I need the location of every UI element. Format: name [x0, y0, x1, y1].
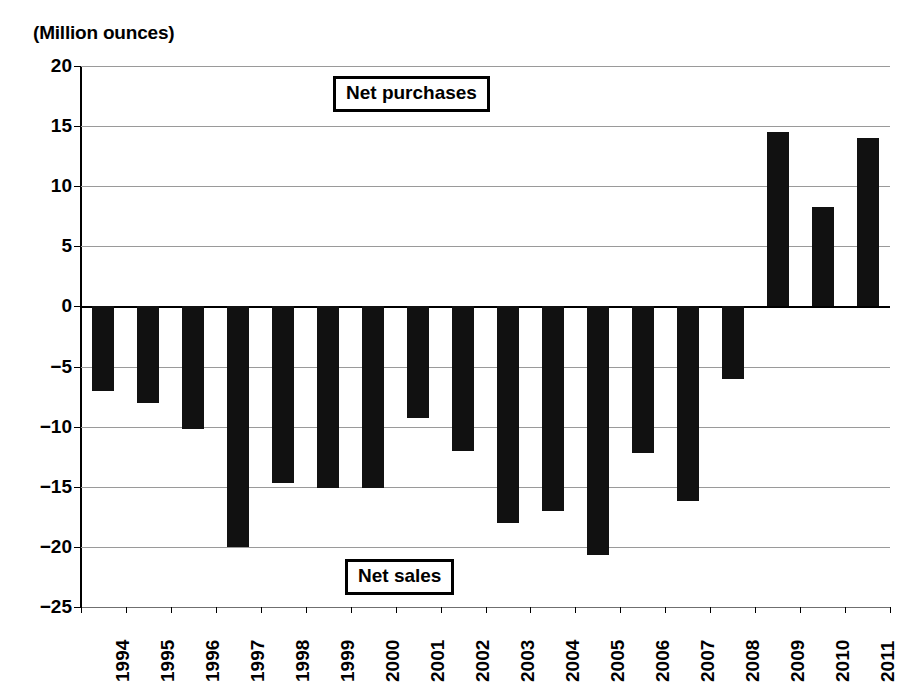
bar-1997 — [227, 306, 249, 546]
bar-2001 — [407, 306, 429, 418]
y-tick-label: 5 — [61, 235, 72, 257]
annotation-net-purchases: Net purchases — [333, 76, 490, 112]
annotation-net-sales: Net sales — [345, 559, 454, 595]
y-tick-mark — [74, 246, 81, 247]
bar-2004 — [542, 306, 564, 510]
bar-2011 — [857, 138, 879, 306]
x-tick-label-2008: 2008 — [742, 608, 764, 682]
x-tick-label-1994: 1994 — [112, 608, 134, 682]
y-tick-label: 15 — [51, 115, 72, 137]
y-tick-mark — [74, 547, 81, 548]
y-tick-label: −20 — [40, 536, 72, 558]
y-tick-label: −15 — [40, 476, 72, 498]
gridline-neg15 — [81, 487, 890, 488]
y-tick-mark — [74, 66, 81, 67]
y-tick-mark — [74, 186, 81, 187]
x-tick-label-2004: 2004 — [562, 608, 584, 682]
x-tick-label-1995: 1995 — [157, 608, 179, 682]
x-tick-label-2002: 2002 — [472, 608, 494, 682]
plot-area — [81, 66, 890, 607]
y-tick-mark — [74, 607, 81, 608]
bar-2002 — [452, 306, 474, 450]
gridline-15 — [81, 126, 890, 127]
bar-2006 — [632, 306, 654, 453]
x-tick-label-1999: 1999 — [337, 608, 359, 682]
y-tick-label: 20 — [51, 55, 72, 77]
y-tick-mark — [74, 427, 81, 428]
bar-2000 — [362, 306, 384, 488]
x-tick-label-2007: 2007 — [697, 608, 719, 682]
gridline-20 — [81, 66, 890, 67]
y-axis-labels: 20151050−5−10−15−20−25 — [0, 0, 72, 684]
bar-1998 — [272, 306, 294, 483]
x-tick-label-1997: 1997 — [247, 608, 269, 682]
bar-2008 — [722, 306, 744, 378]
x-tick-label-2009: 2009 — [787, 608, 809, 682]
x-tick-label-2000: 2000 — [382, 608, 404, 682]
bar-2007 — [677, 306, 699, 501]
x-tick-label-1998: 1998 — [292, 608, 314, 682]
x-axis-labels: 1994199519961997199819992000200120022003… — [81, 610, 890, 684]
bar-2010 — [812, 207, 834, 307]
x-tick-label-2003: 2003 — [517, 608, 539, 682]
y-tick-mark — [74, 487, 81, 488]
x-tick-label-2010: 2010 — [832, 608, 854, 682]
y-tick-label: −5 — [50, 356, 72, 378]
y-tick-label: −10 — [40, 416, 72, 438]
y-tick-mark — [74, 367, 81, 368]
y-tick-label: 10 — [51, 175, 72, 197]
gridline-neg20 — [81, 547, 890, 548]
x-tick-label-2005: 2005 — [607, 608, 629, 682]
bar-2009 — [767, 132, 789, 306]
x-tick-label-1996: 1996 — [202, 608, 224, 682]
y-tick-label: 0 — [61, 295, 72, 317]
bar-1994 — [92, 306, 114, 390]
y-tick-mark — [74, 126, 81, 127]
x-tick-label-2001: 2001 — [427, 608, 449, 682]
x-tick-label-2011: 2011 — [877, 608, 899, 682]
bar-2003 — [497, 306, 519, 522]
x-tick-label-2006: 2006 — [652, 608, 674, 682]
bar-2005 — [587, 306, 609, 555]
bar-1996 — [182, 306, 204, 429]
y-tick-mark — [74, 306, 81, 307]
y-tick-label: −25 — [40, 596, 72, 618]
bar-1995 — [137, 306, 159, 402]
bar-1999 — [317, 306, 339, 488]
